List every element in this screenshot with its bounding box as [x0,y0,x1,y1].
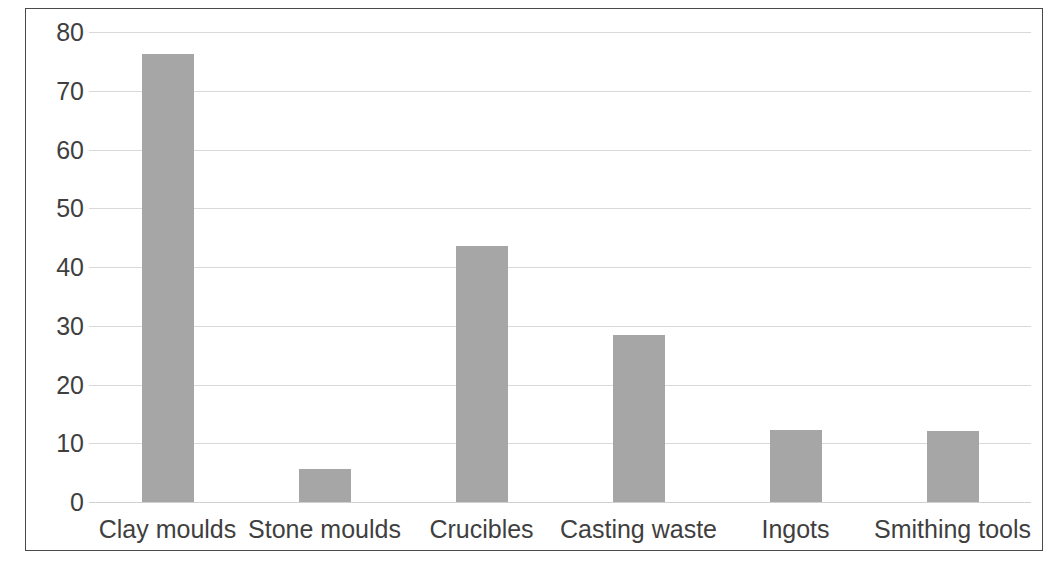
bar-slot [717,32,874,502]
bar[interactable] [456,246,508,502]
plot-area [89,32,1031,502]
x-axis-category-label: Smithing tools [874,516,1031,544]
y-axis-tick-label: 0 [32,490,84,515]
bar-slot [246,32,403,502]
y-axis-tick-labels: 80706050403020100 [26,32,84,502]
y-axis-tick-label: 10 [32,431,84,456]
y-axis-tick-label: 40 [32,255,84,280]
y-axis-tick-label: 20 [32,372,84,397]
x-axis-category-labels: Clay mouldsStone mouldsCruciblesCasting … [89,510,1031,552]
y-axis-tick-label: 70 [32,78,84,103]
bar[interactable] [770,430,822,502]
bar[interactable] [927,431,979,502]
x-axis-category-label: Stone moulds [246,516,403,544]
bar[interactable] [613,335,665,502]
x-axis-category-label: Casting waste [560,516,717,544]
bar-chart: 80706050403020100 Clay mouldsStone mould… [0,0,1059,580]
bar[interactable] [142,54,194,502]
bar-slot [560,32,717,502]
y-axis-tick-label: 50 [32,196,84,221]
y-axis-tick-label: 30 [32,313,84,338]
bar[interactable] [299,469,351,502]
bar-slot [874,32,1031,502]
x-axis-category-label: Ingots [717,516,874,544]
y-axis-tick-label: 60 [32,137,84,162]
y-axis-tick-label: 80 [32,20,84,45]
x-axis-category-label: Clay moulds [89,516,246,544]
gridline-0 [89,502,1031,503]
bar-slot [89,32,246,502]
chart-frame-border: 80706050403020100 Clay mouldsStone mould… [25,8,1043,551]
bar-slot [403,32,560,502]
x-axis-category-label: Crucibles [403,516,560,544]
